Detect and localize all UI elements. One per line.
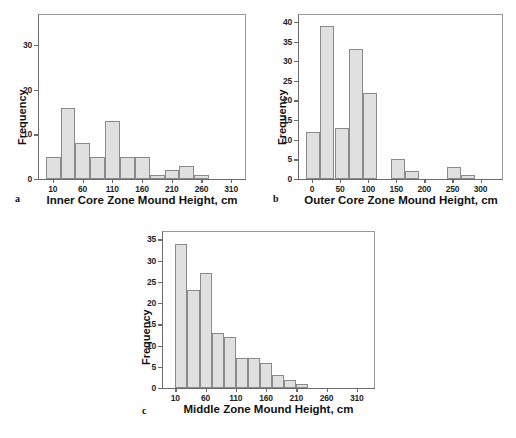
histogram-bar (272, 375, 284, 388)
histogram-bar (306, 132, 320, 179)
histogram-bar (187, 290, 199, 388)
x-axis-tick (83, 179, 84, 183)
y-axis-tick (294, 42, 298, 43)
x-axis-tick-label: 10 (160, 393, 190, 403)
x-axis-tick (424, 179, 425, 183)
y-axis-tick-label: 20 (132, 298, 156, 308)
panel-b-letter: b (273, 193, 279, 204)
histogram-bar (405, 171, 419, 179)
histogram-bar (363, 93, 377, 179)
y-axis-tick-label: 5 (268, 154, 292, 164)
histogram-bar (61, 108, 76, 179)
histogram-bar (260, 363, 272, 388)
panel-c-bars (163, 231, 375, 388)
y-axis-tick-label: 15 (132, 319, 156, 329)
y-axis-tick-label: 10 (8, 129, 32, 139)
y-axis-tick (158, 346, 162, 347)
y-axis-tick (294, 81, 298, 82)
panel-b-bars (299, 14, 503, 179)
histogram-bar (296, 384, 308, 388)
x-axis-tick (175, 388, 176, 392)
panel-b-x-axis-label: Outer Core Zone Mound Height, cm (294, 194, 508, 206)
y-axis-tick (158, 282, 162, 283)
panel-a-letter: a (15, 193, 20, 204)
x-axis-tick-label: 160 (127, 184, 157, 194)
x-axis-tick-label: 100 (353, 184, 383, 194)
x-axis-tick (396, 179, 397, 183)
y-axis-tick (294, 61, 298, 62)
x-axis-tick (112, 179, 113, 183)
x-axis-tick-label: 200 (409, 184, 439, 194)
y-axis-tick (294, 140, 298, 141)
x-axis-tick (296, 388, 297, 392)
x-axis-tick-label: 300 (466, 184, 496, 194)
x-axis-tick (142, 179, 143, 183)
x-axis-tick-label: 0 (297, 184, 327, 194)
x-axis-tick-label: 160 (251, 393, 281, 403)
histogram-bar (90, 157, 105, 179)
y-axis-tick (34, 45, 38, 46)
y-axis-tick-label: 10 (132, 341, 156, 351)
x-axis-tick (206, 388, 207, 392)
x-axis-tick-label: 150 (381, 184, 411, 194)
histogram-bar (179, 166, 194, 179)
y-axis-tick-label: 5 (132, 362, 156, 372)
histogram-bar (135, 157, 150, 179)
y-axis-tick-label: 25 (132, 277, 156, 287)
y-axis-tick-label: 0 (268, 174, 292, 184)
y-axis-tick-label: 20 (268, 95, 292, 105)
x-axis-tick-label: 310 (216, 184, 246, 194)
panel-c-letter: c (142, 405, 146, 416)
y-axis-tick-label: 30 (268, 56, 292, 66)
x-axis-tick (266, 388, 267, 392)
x-axis-tick (312, 179, 313, 183)
panel-b-x-axis-line (298, 179, 503, 180)
y-axis-tick-label: 20 (8, 85, 32, 95)
x-axis-tick (236, 388, 237, 392)
y-axis-tick (294, 179, 298, 180)
histogram-bar (175, 244, 187, 388)
x-axis-tick-label: 110 (221, 393, 251, 403)
histogram-bar (447, 167, 461, 179)
y-axis-tick (158, 261, 162, 262)
histogram-bar (461, 175, 475, 179)
x-axis-tick-label: 50 (325, 184, 355, 194)
y-axis-tick-label: 30 (132, 256, 156, 266)
x-axis-tick (327, 388, 328, 392)
histogram-bar (165, 170, 180, 179)
y-axis-tick-label: 25 (268, 76, 292, 86)
panel-a: Frequency 0102030 1060110160210260310 In… (0, 0, 258, 215)
histogram-bar (212, 333, 224, 388)
y-axis-tick (34, 90, 38, 91)
y-axis-tick (158, 239, 162, 240)
x-axis-tick (452, 179, 453, 183)
x-axis-tick-label: 310 (342, 393, 372, 403)
x-axis-tick (231, 179, 232, 183)
histogram-bar (105, 121, 120, 179)
panel-c-x-axis-line (162, 388, 375, 389)
x-axis-tick-label: 250 (437, 184, 467, 194)
y-axis-tick (158, 303, 162, 304)
x-axis-tick-label: 110 (97, 184, 127, 194)
y-axis-tick-label: 40 (268, 17, 292, 27)
x-axis-tick-label: 210 (281, 393, 311, 403)
x-axis-tick-label: 60 (191, 393, 221, 403)
panel-b: Frequency 0510152025303540 0501001502002… (258, 0, 516, 215)
histogram-bar (284, 380, 296, 388)
y-axis-tick-label: 30 (8, 40, 32, 50)
x-axis-tick (340, 179, 341, 183)
y-axis-tick (294, 159, 298, 160)
y-axis-tick-label: 0 (8, 174, 32, 184)
histogram-bar (46, 157, 61, 179)
panel-c-x-axis-label: Middle Zone Mound Height, cm (162, 403, 375, 415)
y-axis-tick-label: 35 (132, 234, 156, 244)
x-axis-tick-label: 260 (186, 184, 216, 194)
histogram-bar (248, 358, 260, 388)
y-axis-tick (34, 179, 38, 180)
histogram-bar (200, 273, 212, 388)
y-axis-tick (294, 22, 298, 23)
x-axis-tick (368, 179, 369, 183)
panel-a-bars (39, 14, 246, 179)
x-axis-tick (172, 179, 173, 183)
histogram-bar (150, 175, 165, 179)
